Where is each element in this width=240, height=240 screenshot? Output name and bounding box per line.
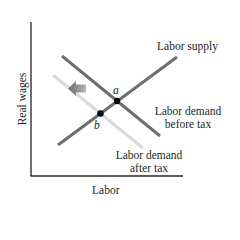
labor-supply-label: Labor supply: [157, 40, 218, 53]
equilibrium-point-a: [114, 98, 120, 104]
labor-demand-before-tax-label-line2: before tax: [152, 118, 224, 131]
labor-demand-before-tax-label: Labor demand before tax: [152, 105, 224, 131]
point-a-label: a: [113, 84, 119, 96]
y-axis-label: Real wages: [16, 69, 28, 129]
labor-demand-after-tax-label: Labor demand after tax: [113, 149, 185, 175]
point-b-label: b: [94, 119, 100, 131]
labor-demand-after-tax-label-line2: after tax: [113, 162, 185, 175]
labor-demand-before-tax-label-line1: Labor demand: [152, 105, 224, 118]
labor-demand-after-tax-label-line1: Labor demand: [113, 149, 185, 162]
x-axis-label: Labor: [92, 184, 119, 197]
equilibrium-point-b: [97, 110, 103, 116]
